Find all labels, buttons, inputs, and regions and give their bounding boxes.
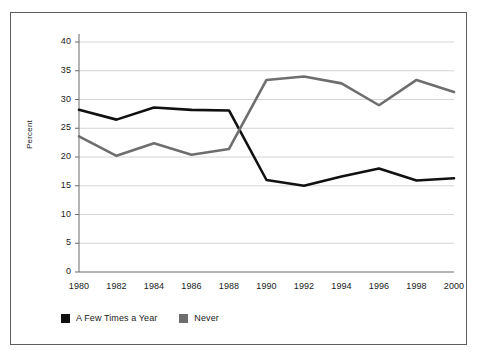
- series-line: [79, 77, 454, 156]
- x-tick-label: 2000: [432, 281, 476, 291]
- y-tick-label: 20: [45, 151, 71, 161]
- y-tick-label: 0: [45, 266, 71, 276]
- y-axis-title: Percent: [25, 120, 34, 149]
- chart-figure: Percent 0510152025303540 198019821984198…: [10, 12, 467, 345]
- series-lines: [79, 77, 454, 186]
- gridlines: [79, 42, 454, 272]
- y-tick-label: 15: [45, 180, 71, 190]
- plot-area: Percent 0510152025303540 198019821984198…: [11, 13, 466, 344]
- line-chart-canvas: [11, 13, 468, 346]
- legend-item[interactable]: A Few Times a Year: [61, 313, 157, 323]
- legend-label: Never: [194, 313, 219, 323]
- y-tick-label: 35: [45, 65, 71, 75]
- legend-swatch-icon: [61, 314, 70, 323]
- y-tick-label: 40: [45, 36, 71, 46]
- y-tick-label: 30: [45, 94, 71, 104]
- chart-legend: A Few Times a YearNever: [61, 313, 219, 323]
- legend-item[interactable]: Never: [179, 313, 219, 323]
- y-tick-label: 25: [45, 122, 71, 132]
- legend-swatch-icon: [179, 314, 188, 323]
- legend-label: A Few Times a Year: [76, 313, 157, 323]
- y-tick-label: 10: [45, 209, 71, 219]
- y-tick-label: 5: [45, 237, 71, 247]
- axis-lines: [75, 34, 79, 272]
- series-line: [79, 108, 454, 186]
